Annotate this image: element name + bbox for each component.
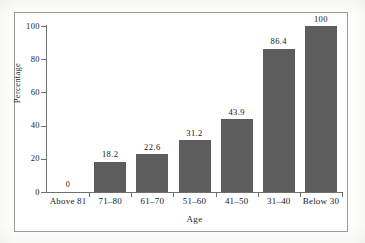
bar-value-label: 31.2 bbox=[172, 129, 218, 138]
bar-group[interactable]: 31.2 bbox=[179, 26, 211, 192]
y-axis-tick-label: 40 bbox=[14, 121, 40, 130]
y-axis-tick-label: 0 bbox=[14, 188, 40, 197]
y-axis-tick bbox=[41, 92, 46, 93]
bar-group[interactable]: 0 bbox=[52, 26, 84, 192]
bar-value-label: 86.4 bbox=[256, 37, 302, 46]
y-axis-tick bbox=[41, 26, 46, 27]
bar[interactable] bbox=[263, 49, 295, 192]
bar-value-label: 43.9 bbox=[214, 108, 260, 117]
y-axis-tick-label: 20 bbox=[14, 154, 40, 163]
bar-group[interactable]: 86.4 bbox=[263, 26, 295, 192]
plot-area: 018.222.631.243.986.4100 bbox=[47, 26, 342, 192]
bar-group[interactable]: 22.6 bbox=[136, 26, 168, 192]
x-axis-line bbox=[46, 192, 343, 193]
bar-group[interactable]: 43.9 bbox=[221, 26, 253, 192]
bar[interactable] bbox=[305, 26, 337, 192]
bar[interactable] bbox=[94, 162, 126, 192]
y-axis-tick bbox=[41, 59, 46, 60]
bar-value-label: 18.2 bbox=[87, 150, 133, 159]
bar-value-label: 0 bbox=[45, 181, 91, 189]
y-axis-tick bbox=[41, 192, 46, 193]
bar-group[interactable]: 18.2 bbox=[94, 26, 126, 192]
y-axis-tick bbox=[41, 159, 46, 160]
x-axis-title: Age bbox=[46, 214, 343, 224]
y-axis-title: Percentage bbox=[12, 48, 22, 118]
figure-root: 020406080100 018.222.631.243.986.4100 Ab… bbox=[0, 0, 365, 243]
bar[interactable] bbox=[179, 140, 211, 192]
bar-value-label: 22.6 bbox=[129, 143, 175, 152]
bar-group[interactable]: 100 bbox=[305, 26, 337, 192]
bar[interactable] bbox=[221, 119, 253, 192]
y-axis-tick-label: 100 bbox=[14, 22, 40, 31]
x-axis-category-label: Below 30 bbox=[294, 197, 348, 207]
bar[interactable] bbox=[136, 154, 168, 192]
bar-value-label: 100 bbox=[298, 15, 344, 24]
y-axis-tick bbox=[41, 126, 46, 127]
